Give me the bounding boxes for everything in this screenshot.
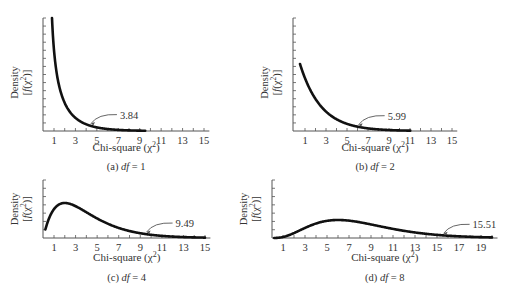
critical-value-label: 15.51 [473,219,497,230]
x-tick-label: 13 [426,135,437,146]
x-tick-label: 15 [447,135,458,146]
x-tick-label: 1 [302,135,307,146]
y-axis-title: Density[f(χ2)] [9,65,33,98]
panel-caption: (c) df = 4 [107,272,147,284]
chi-square-figure: 135791113153.84Chi-square (χ2)(a) df = 1… [0,0,505,297]
x-axis-title: Chi-square (χ2) [93,140,161,154]
x-tick-label: 3 [323,135,328,146]
x-tick-label: 1 [51,242,56,253]
panel-caption: (b) df = 2 [355,161,394,173]
y-axis-title: Density[f(χ2)] [259,65,283,98]
x-tick-label: 3 [73,135,78,146]
x-axis-title: Chi-square (χ2) [351,250,419,264]
panel-caption: (d) df = 8 [365,272,404,284]
x-tick-label: 1 [280,242,285,253]
x-tick-label: 3 [73,242,78,253]
critical-value-label: 3.84 [120,110,139,121]
x-tick-label: 1 [51,135,56,146]
x-tick-label: 17 [454,242,465,253]
critical-value-label: 9.49 [176,218,194,229]
svg-text:Density: Density [238,192,249,225]
x-axis-title: Chi-square (χ2) [93,250,161,264]
density-curve [274,220,492,238]
y-axis-title: Density[f(χ2)] [9,192,33,225]
x-tick-label: 19 [476,242,487,253]
chart-panel-b: 135791113155.99Chi-square (χ2)(b) df = 2… [259,18,457,173]
svg-text:Density: Density [259,65,270,98]
chart-panel-c: 135791113159.49Chi-square (χ2)(c) df = 4… [9,180,210,284]
x-tick-label: 13 [177,135,188,146]
chart-panel-d: 13579111315171915.51Chi-square (χ2)(d) d… [238,180,498,284]
chart-panel-a: 135791113153.84Chi-square (χ2)(a) df = 1… [9,18,209,173]
svg-text:[f(χ2)]: [f(χ2)] [19,70,33,95]
x-tick-label: 13 [178,242,189,253]
x-tick-label: 15 [432,242,443,253]
x-tick-label: 15 [200,242,211,253]
svg-text:[f(χ2)]: [f(χ2)] [19,196,33,221]
svg-text:Density: Density [9,65,20,98]
x-tick-label: 5 [324,242,329,253]
panel-caption: (a) df = 1 [107,161,146,173]
svg-text:[f(χ2)]: [f(χ2)] [248,196,262,221]
x-tick-label: 15 [199,135,210,146]
critical-value-label: 5.99 [388,111,406,122]
x-axis-title: Chi-square (χ2) [342,140,410,154]
y-axis-title: Density[f(χ2)] [238,192,262,225]
svg-text:Density: Density [9,192,20,225]
svg-text:[f(χ2)]: [f(χ2)] [269,70,283,95]
x-tick-label: 3 [302,242,307,253]
